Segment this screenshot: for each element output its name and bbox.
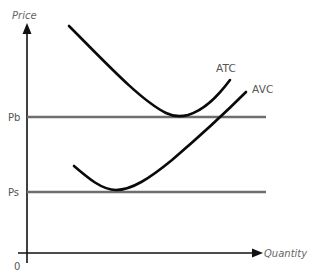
price-level-pb: Pb	[8, 112, 266, 123]
avc-curve	[74, 92, 246, 190]
avc-label: AVC	[252, 83, 274, 95]
y-axis: Price	[12, 10, 37, 263]
x-axis: Quantity	[18, 248, 308, 259]
atc-label: ATC	[216, 62, 236, 74]
x-axis-label: Quantity	[264, 248, 308, 259]
price-level-ps: Ps	[8, 187, 266, 198]
x-axis-arrow-icon	[252, 249, 263, 258]
ps-label: Ps	[8, 187, 19, 198]
avc-curve-group: AVC	[74, 83, 274, 190]
pb-label: Pb	[8, 112, 20, 123]
atc-curve-group: ATC	[69, 26, 236, 116]
cost-curves-diagram: Price Quantity 0 Pb Ps ATC AVC	[0, 0, 314, 274]
origin-label: 0	[14, 261, 20, 272]
y-axis-arrow-icon	[23, 23, 32, 34]
atc-curve	[69, 26, 230, 116]
y-axis-label: Price	[12, 10, 37, 21]
